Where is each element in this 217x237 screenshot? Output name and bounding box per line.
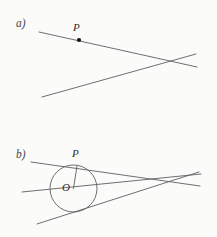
panel-b-label: b) (16, 149, 26, 161)
panel-a-upper-line (39, 32, 197, 67)
panel-a-point-p-label: P (73, 22, 80, 33)
panel-b-geometry (22, 162, 201, 224)
panel-b-lower-tangent-line (37, 172, 199, 224)
figure-canvas (0, 0, 217, 237)
panel-b-point-o-label: O (62, 182, 70, 193)
panel-a-label: a) (16, 18, 26, 30)
panel-a-lower-line (42, 54, 196, 97)
panel-a-point-p-dot (77, 38, 81, 42)
panel-b-point-p-label: P (72, 148, 79, 159)
panel-b-radius-segment-to-p (74, 166, 78, 189)
panel-b-axis-line-through-centre (22, 174, 201, 192)
panel-a-geometry (39, 32, 197, 97)
geometry-figure: a) P b) P O (0, 0, 217, 237)
